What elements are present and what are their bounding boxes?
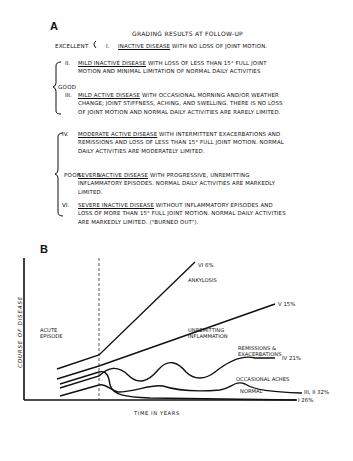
entry-num: IV.: [62, 131, 69, 137]
aches-label: OCCASIONAL ACHES: [236, 376, 289, 382]
disease-course-chart: COURSE OF DISEASE ACUTE EPISODE ANKYLOSI…: [0, 240, 353, 461]
y-axis-label: COURSE OF DISEASE: [17, 296, 23, 368]
end-label-i: I 26%: [298, 397, 313, 403]
normal-label: NORMAL: [240, 388, 263, 394]
line-vi: [57, 262, 195, 369]
line-v: [57, 304, 275, 379]
end-label-v: V 15%: [278, 301, 295, 307]
unremitting-label-2: INFLAMMATION: [188, 333, 228, 339]
entry-term: MILD ACTIVE DISEASE: [78, 92, 140, 98]
acute-label-2: EPISODE: [40, 333, 63, 339]
grade-entry-v: SEVERE ACTIVE DISEASE WITH PROGRESSIVE, …: [78, 171, 288, 196]
grade-entry-iii: MILD ACTIVE DISEASE WITH OCCASIONAL MORN…: [78, 91, 288, 116]
entry-term: INACTIVE DISEASE: [118, 43, 170, 49]
grade-entry-iv: MODERATE ACTIVE DISEASE WITH INTERMITTEN…: [78, 130, 288, 155]
entry-num: II.: [65, 60, 70, 66]
entry-num: I.: [106, 43, 109, 49]
remissions-label-2: EXACERBATIONS: [238, 351, 281, 357]
end-label-iv: IV 21%: [282, 355, 301, 361]
entry-term: MODERATE ACTIVE DISEASE: [78, 131, 157, 137]
line-iii-ii: [60, 383, 302, 396]
entry-term: SEVERE ACTIVE DISEASE: [78, 172, 148, 178]
entry-num: III.: [65, 92, 72, 98]
entry-term: SEVERE INACTIVE DISEASE: [78, 202, 154, 208]
entry-term: MILD INACTIVE DISEASE: [78, 60, 146, 66]
end-label-vi: VI 6%: [198, 262, 214, 268]
entry-text: WITH NO LOSS OF JOINT MOTION.: [170, 43, 267, 49]
entry-num: VI.: [62, 202, 69, 208]
ankylosis-label: ANKYLOSIS: [188, 277, 217, 283]
grade-entry-ii: MILD INACTIVE DISEASE WITH LOSS OF LESS …: [78, 59, 288, 76]
end-label-iii-ii: III, II 32%: [304, 389, 329, 395]
x-axis-label: TIME IN YEARS: [133, 410, 180, 416]
grade-entry-vi: SEVERE INACTIVE DISEASE WITHOUT INFLAMMA…: [78, 201, 288, 226]
grade-entry-i: INACTIVE DISEASE WITH NO LOSS OF JOINT M…: [118, 42, 328, 50]
